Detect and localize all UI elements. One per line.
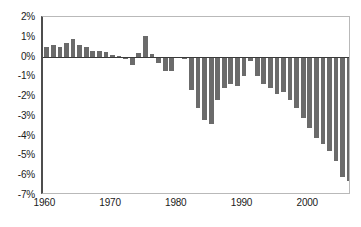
bar (333, 57, 339, 162)
bar (43, 47, 49, 57)
bars-layer (43, 17, 349, 193)
bar (83, 47, 89, 57)
bar (155, 57, 161, 64)
x-axis-tick-label: 1980 (165, 197, 186, 208)
bar (234, 57, 240, 87)
y-axis-tick-label: -5% (18, 149, 35, 160)
zero-baseline (43, 57, 349, 58)
bar (346, 57, 350, 182)
bar (326, 57, 332, 152)
bar (50, 45, 56, 57)
bar (63, 43, 69, 57)
x-axis-tick-label: 2000 (297, 197, 318, 208)
plot-area (41, 16, 350, 194)
y-axis-tick-label: -7% (18, 189, 35, 200)
bar (320, 57, 326, 144)
y-axis-tick-label: -2% (18, 90, 35, 101)
y-axis-tick-label: -6% (18, 169, 35, 180)
bar (57, 47, 63, 57)
bar (293, 57, 299, 108)
y-axis-tick-label: 1% (21, 30, 35, 41)
bar (306, 57, 312, 128)
bar (188, 57, 194, 91)
bar (208, 57, 214, 124)
bar (339, 57, 345, 178)
bar (254, 57, 260, 77)
bar (287, 57, 293, 101)
bar (313, 57, 319, 138)
bar (168, 57, 174, 72)
x-axis-tick-label: 1960 (34, 197, 55, 208)
y-axis-tick-label: -3% (18, 109, 35, 120)
y-axis-tick-label: 0% (21, 50, 35, 61)
bar (260, 57, 266, 85)
bar (241, 57, 247, 77)
bar (195, 57, 201, 108)
bar (214, 57, 220, 101)
bar (267, 57, 273, 89)
bar (162, 57, 168, 72)
bar (142, 36, 148, 57)
y-axis-labels: 2%1%0%-1%-2%-3%-4%-5%-6%-7% (0, 16, 38, 194)
x-axis-tick-label: 1970 (99, 197, 120, 208)
bar (76, 45, 82, 57)
bar (221, 57, 227, 89)
x-axis-tick-label: 1990 (231, 197, 252, 208)
bar (70, 39, 76, 57)
x-axis-labels: 19601970198019902000 (41, 197, 350, 217)
bar (300, 57, 306, 118)
bar (129, 57, 135, 66)
bar-chart: 2%1%0%-1%-2%-3%-4%-5%-6%-7% 196019701980… (0, 0, 361, 227)
bar (201, 57, 207, 120)
y-axis-tick-label: -1% (18, 70, 35, 81)
y-axis-tick-label: 2% (21, 11, 35, 22)
bar (274, 57, 280, 95)
y-axis-tick-label: -4% (18, 129, 35, 140)
bar (227, 57, 233, 85)
bar (280, 57, 286, 93)
